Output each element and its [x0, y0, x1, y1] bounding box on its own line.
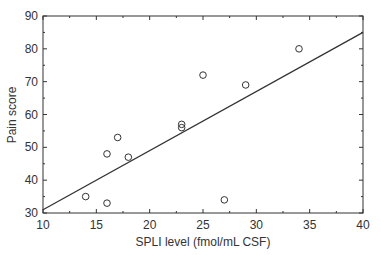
x-tick-label: 35 — [303, 218, 317, 232]
x-tick-label: 15 — [90, 218, 104, 232]
axis-ticks: 1015202530354030405060708090 — [25, 9, 370, 232]
data-point — [104, 151, 111, 158]
regression-line — [43, 32, 363, 209]
data-point — [125, 154, 132, 161]
data-points — [82, 46, 302, 207]
y-tick-label: 80 — [25, 42, 39, 56]
data-point — [104, 200, 111, 207]
y-tick-label: 70 — [25, 75, 39, 89]
data-point — [82, 193, 89, 200]
x-tick-label: 30 — [250, 218, 264, 232]
x-tick-label: 20 — [143, 218, 157, 232]
y-tick-label: 60 — [25, 108, 39, 122]
y-tick-label: 90 — [25, 9, 39, 23]
y-axis-label: Pain score — [5, 86, 19, 143]
data-point — [242, 82, 249, 89]
data-point — [221, 197, 228, 204]
x-tick-label: 10 — [36, 218, 50, 232]
y-tick-label: 50 — [25, 140, 39, 154]
data-point — [114, 134, 121, 141]
y-tick-label: 40 — [25, 173, 39, 187]
y-tick-label: 30 — [25, 206, 39, 220]
data-point — [296, 46, 303, 53]
x-tick-label: 25 — [196, 218, 210, 232]
x-axis-label: SPLI level (fmol/mL CSF) — [136, 235, 271, 249]
data-point — [200, 72, 207, 79]
x-tick-label: 40 — [356, 218, 370, 232]
scatter-chart: 1015202530354030405060708090 SPLI level … — [0, 0, 381, 255]
